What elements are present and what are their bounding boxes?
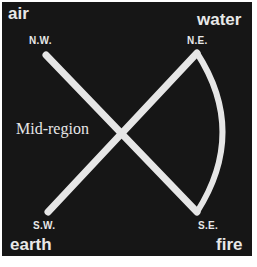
element-label-fire: fire xyxy=(216,236,242,253)
direction-label-se: S.E. xyxy=(198,221,218,231)
direction-label-sw: S.W. xyxy=(33,221,55,231)
center-label-mid-region: Mid-region xyxy=(16,121,89,137)
direction-label-nw: N.W. xyxy=(29,36,52,46)
element-label-earth: earth xyxy=(10,236,52,253)
east-arc xyxy=(197,53,223,212)
direction-label-ne: N.E. xyxy=(187,36,208,46)
element-label-air: air xyxy=(8,5,29,22)
element-label-water: water xyxy=(197,11,241,28)
